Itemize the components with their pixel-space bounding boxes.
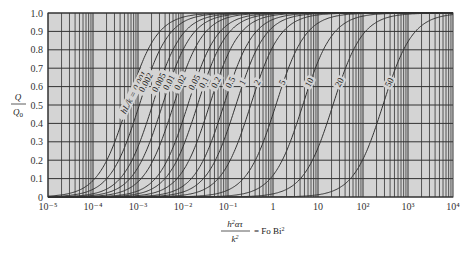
y-tick-label: 0.6	[31, 81, 44, 92]
y-tick-label: 0.1	[31, 173, 44, 184]
x-axis-ticks: 10⁻⁵10⁻⁴10⁻³10⁻²10⁻¹11010²10³10⁴	[39, 201, 461, 212]
x-tick-label: 10⁴	[446, 201, 460, 212]
y-axis-ticks: 00.10.20.30.40.50.60.70.80.91.0	[31, 8, 44, 203]
y-tick-label: 0.3	[31, 136, 44, 147]
y-tick-label: 0.4	[31, 118, 44, 129]
svg-text:k2: k2	[232, 234, 239, 244]
y-tick-label: 0.2	[31, 155, 44, 166]
x-tick-label: 1	[271, 201, 276, 212]
svg-text:Q: Q	[15, 92, 22, 102]
y-tick-label: 0.7	[31, 63, 44, 74]
x-axis-label: h2ατ k2 = Fo Bi2	[221, 219, 285, 244]
x-tick-label: 10⁻⁵	[39, 201, 58, 212]
y-tick-label: 1.0	[31, 8, 44, 19]
x-tick-label: 10²	[357, 201, 370, 212]
x-tick-label: 10⁻³	[129, 201, 147, 212]
heat-loss-chart: hL/k = 0.0010.0020.0050.010.020.050.10.2…	[0, 0, 470, 258]
y-tick-label: 0.8	[31, 44, 44, 55]
svg-text:h2ατ: h2ατ	[227, 219, 243, 229]
svg-text:= Fo Bi2: = Fo Bi2	[254, 226, 285, 236]
x-tick-label: 10³	[402, 201, 415, 212]
y-axis-label: Q Q0	[11, 92, 26, 119]
x-tick-label: 10⁻¹	[219, 201, 237, 212]
svg-text:Q0: Q0	[13, 107, 24, 119]
x-tick-label: 10⁻⁴	[84, 201, 103, 212]
y-tick-label: 0.9	[31, 26, 44, 37]
y-tick-label: 0.5	[31, 100, 44, 111]
x-tick-label: 10⁻²	[174, 201, 192, 212]
x-tick-label: 10	[313, 201, 323, 212]
